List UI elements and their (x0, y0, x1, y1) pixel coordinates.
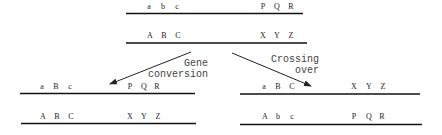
gene-label: P (261, 2, 266, 11)
gene-label: X (127, 112, 133, 121)
gene-conversion-chromosome-2: A B C X Y Z (21, 112, 196, 124)
gene-label: R (288, 2, 294, 11)
gene-label: a (147, 2, 151, 11)
gene-label: R (379, 112, 385, 121)
gene-label: C (289, 82, 294, 91)
gene-label: A (40, 112, 46, 121)
gene-label: X (351, 82, 357, 91)
gene-label: B (54, 112, 59, 121)
gene-conversion-chromosome-pair: a B c P Q R A B C X Y Z (20, 82, 196, 124)
gene-label: Q (366, 112, 372, 121)
gene-label: X (260, 31, 266, 40)
gene-label: P (128, 82, 133, 91)
gene-label: Q (141, 82, 147, 91)
gene-conversion-label-line2: conversion (148, 69, 208, 80)
crossing-over-label-line1: Crossing (271, 54, 319, 65)
gene-label: a (40, 82, 44, 91)
gene-label: B (161, 31, 166, 40)
gene-label: C (68, 112, 73, 121)
gene-label: A (147, 31, 153, 40)
gene-label: B (275, 82, 280, 91)
gene-label: a (262, 82, 266, 91)
gene-label: Y (274, 31, 280, 40)
gene-label: b (276, 112, 280, 121)
gene-conversion-branch: Gene conversion (110, 52, 208, 84)
gene-label: c (290, 112, 294, 121)
parent-chromosome-1: a b c P Q R (126, 2, 303, 14)
gene-label: Z (289, 31, 294, 40)
gene-label: b (161, 2, 165, 11)
gene-label: B (53, 82, 58, 91)
gene-label: c (68, 82, 72, 91)
gene-label: c (175, 2, 179, 11)
gene-label: Z (156, 112, 161, 121)
gene-label: Q (274, 2, 280, 11)
gene-label: P (352, 112, 357, 121)
crossing-over-chromosome-pair: a B C X Y Z A b c P Q R (240, 82, 422, 125)
gene-label: R (154, 82, 160, 91)
gene-label: Y (141, 112, 147, 121)
crossing-over-chromosome-1: a B C X Y Z (240, 82, 420, 94)
gene-label: C (175, 31, 180, 40)
parent-chromosome-2: A B C X Y Z (126, 31, 307, 43)
parent-chromosome-pair: a b c P Q R A B C X Y Z (126, 2, 307, 43)
gene-conversion-label-line1: Gene (184, 58, 208, 69)
crossing-over-chromosome-2: A b c P Q R (240, 112, 422, 125)
crossing-over-label-line2: over (295, 65, 319, 76)
gene-label: Y (366, 82, 372, 91)
gene-conversion-chromosome-1: a B c P Q R (20, 82, 195, 94)
gene-label: A (262, 112, 268, 121)
gene-conversion-vs-crossing-over-diagram: a b c P Q R A B C X Y Z Gene conversion … (0, 0, 442, 135)
gene-label: Z (381, 82, 386, 91)
